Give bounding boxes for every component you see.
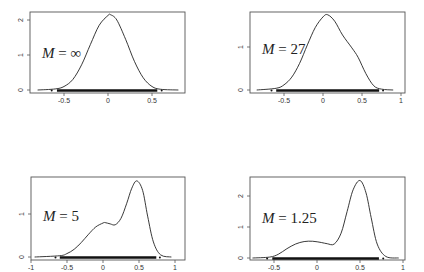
x-tick-label: -0.5 bbox=[268, 264, 280, 271]
parameter-annotation: M = 1.25 bbox=[261, 210, 317, 226]
x-tick-label: 0.5 bbox=[355, 264, 365, 271]
x-tick-label: 0 bbox=[321, 97, 325, 104]
panel-m-27: -0.500.5101M = 27 bbox=[237, 12, 405, 104]
parameter-annotation: M = 5 bbox=[42, 208, 79, 224]
parameter-annotation: M = ∞ bbox=[41, 45, 81, 61]
x-tick-label: -1 bbox=[28, 264, 34, 271]
x-tick-label: -0.5 bbox=[61, 264, 73, 271]
x-tick-label: 0 bbox=[315, 264, 319, 271]
panel-m-5: -1-0.500.5101M = 5 bbox=[18, 177, 185, 271]
rug-outlier bbox=[54, 257, 56, 259]
y-tick-label: 0 bbox=[237, 88, 244, 92]
rug-outlier bbox=[382, 258, 384, 260]
y-tick-label: 1 bbox=[237, 225, 244, 229]
panel-m-1-25: -0.500.51012M = 1.25 bbox=[237, 177, 405, 271]
x-tick-label: 0.5 bbox=[357, 97, 367, 104]
y-tick-label: 1 bbox=[18, 212, 25, 216]
x-tick-label: 1 bbox=[173, 264, 177, 271]
x-tick-label: 0 bbox=[106, 97, 110, 104]
x-tick-label: -0.5 bbox=[278, 97, 290, 104]
density-figure: -0.500.5012M = ∞ -0.500.5101M = 27 -1-0.… bbox=[0, 0, 424, 272]
panel-m-infinity: -0.500.5012M = ∞ bbox=[17, 12, 185, 104]
x-tick-label: 0.5 bbox=[147, 97, 157, 104]
y-tick-label: 1 bbox=[237, 45, 244, 49]
y-tick-label: 0 bbox=[237, 256, 244, 260]
x-tick-label: 0 bbox=[101, 264, 105, 271]
x-tick-label: 1 bbox=[401, 264, 405, 271]
rug-outlier bbox=[159, 257, 161, 259]
y-tick-label: 0 bbox=[17, 88, 24, 92]
x-tick-label: 0.5 bbox=[134, 264, 144, 271]
y-tick-label: 0 bbox=[18, 255, 25, 259]
x-tick-label: -0.5 bbox=[58, 97, 70, 104]
rug-outlier bbox=[271, 90, 273, 92]
y-tick-label: 1 bbox=[17, 53, 24, 57]
y-tick-label: 2 bbox=[237, 194, 244, 198]
y-tick-label: 2 bbox=[17, 18, 24, 22]
x-tick-label: 1 bbox=[399, 97, 403, 104]
parameter-annotation: M = 27 bbox=[261, 41, 306, 57]
rug-outlier bbox=[51, 90, 53, 92]
